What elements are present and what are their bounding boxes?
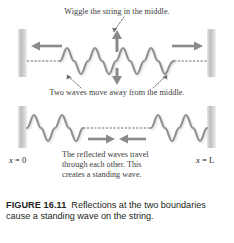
annotation-two-waves-move-away: Two waves move away from the middle. [0, 88, 234, 98]
annotation-reflected-line-1: The reflected waves travel [62, 150, 174, 160]
figure-caption: FIGURE 16.11Reflections at the two bound… [6, 200, 228, 223]
arrow-right-icon [172, 41, 203, 50]
annotation-reflected-waves: The reflected waves travel through each … [62, 150, 174, 180]
arrow-left-inward-icon [119, 135, 146, 144]
annotation-reflected-line-3: creates a standing wave. [62, 170, 174, 180]
wall-post-left-icon [18, 29, 27, 77]
axis-label-x-length-var: x [196, 155, 200, 165]
axis-label-x-zero: x = 0 [9, 155, 26, 165]
wall-post-right-icon [207, 29, 216, 77]
panel-bottom-standing-wave [0, 104, 234, 152]
wall-post-left-icon [18, 106, 27, 148]
axis-label-x-length: x = L [196, 155, 214, 165]
arrow-left-icon [31, 41, 62, 50]
axis-label-x-zero-value: = 0 [15, 155, 26, 165]
figure-16-11: Wiggle the string in the middle. [0, 0, 234, 243]
wave-packet-left [27, 115, 83, 141]
annotation-reflected-line-2: through each other. This [62, 160, 174, 170]
axis-label-x-zero-var: x [9, 155, 13, 165]
wall-post-right-icon [207, 106, 216, 148]
panel-top-outgoing-waves [0, 28, 234, 86]
arrow-down-icon [112, 68, 122, 85]
arrow-right-inward-icon [88, 135, 115, 144]
wave-packet-right [151, 115, 207, 141]
arrow-up-icon [112, 30, 122, 52]
figure-number: FIGURE 16.11 [6, 200, 66, 210]
axis-label-x-length-value: = L [202, 155, 214, 165]
